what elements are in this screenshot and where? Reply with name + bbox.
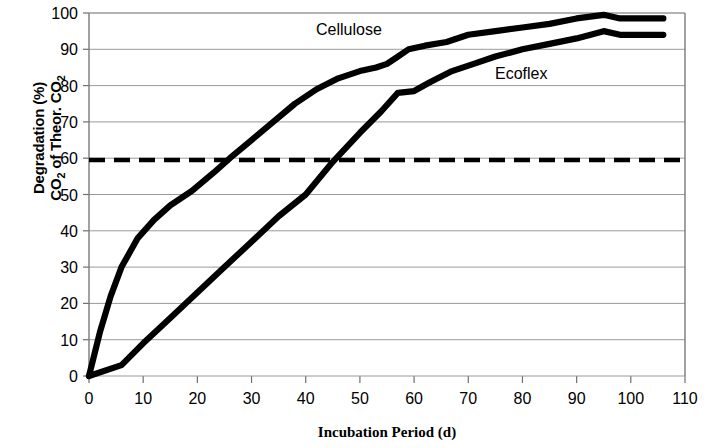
y-axis-title-line-1: Degradation (%) (30, 28, 47, 248)
x-tick-label: 20 (188, 390, 206, 407)
y-tick-label: 100 (51, 5, 78, 22)
x-axis-title: Incubation Period (d) (89, 424, 685, 441)
x-tick-label: 40 (297, 390, 315, 407)
x-tick-label: 70 (459, 390, 477, 407)
chart-plot-svg: 0102030405060708090100 01020304050607080… (0, 0, 710, 448)
y-axis-title-co2-prefix: CO (47, 179, 64, 201)
y-tick-label: 20 (60, 295, 78, 312)
x-tick-label: 100 (617, 390, 644, 407)
x-tick-label: 90 (568, 390, 586, 407)
series-label-cellulose: Cellulose (316, 21, 382, 39)
y-tick-label: 10 (60, 332, 78, 349)
x-tick-label: 30 (243, 390, 261, 407)
x-tick-label: 80 (514, 390, 532, 407)
x-tick-label: 50 (351, 390, 369, 407)
y-tick-label: 0 (69, 368, 78, 385)
y-axis-title: Degradation (%) CO2 of Theor. CO2 (30, 28, 70, 248)
x-tick-label: 0 (85, 390, 94, 407)
tick-marks (83, 13, 685, 383)
y-axis-title-line-2: CO2 of Theor. CO2 (47, 28, 70, 248)
series-line-cellulose (89, 15, 663, 376)
x-tick-label: 60 (405, 390, 423, 407)
y-axis-title-middle: of Theor. CO (47, 81, 64, 173)
y-tick-label: 30 (60, 259, 78, 276)
y-axis-title-sub-2: 2 (55, 75, 67, 81)
x-axis-tick-labels: 0102030405060708090100110 (85, 390, 698, 407)
y-axis-title-sub-1: 2 (55, 173, 67, 179)
series-label-ecoflex: Ecoflex (495, 65, 547, 83)
series-lines (89, 15, 663, 376)
degradation-chart-figure: 0102030405060708090100 01020304050607080… (0, 0, 710, 448)
x-tick-label: 110 (672, 390, 698, 407)
x-tick-label: 10 (134, 390, 152, 407)
